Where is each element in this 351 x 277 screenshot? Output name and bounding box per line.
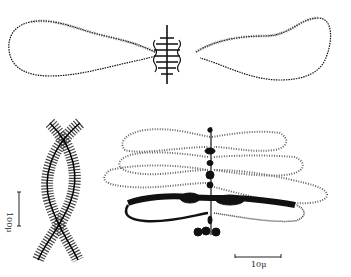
scale-bar-left-label: 100μ [5, 212, 14, 232]
top-loop-figure [0, 0, 351, 100]
multi-loop-figure [100, 125, 345, 245]
twisted-chromatids-figure [30, 118, 90, 268]
scale-bar-left [15, 190, 29, 230]
scale-bar-right-label: 10μ [251, 260, 266, 269]
scale-bar-right [234, 252, 284, 260]
